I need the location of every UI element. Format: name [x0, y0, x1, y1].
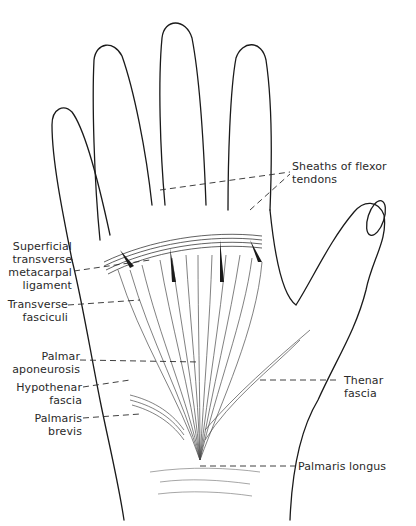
label-line: transverse [8, 253, 72, 266]
label-line: Thenar [344, 374, 383, 387]
label-line: aponeurosis [12, 363, 80, 376]
label-palmaris-brevis: Palmaris brevis [34, 412, 82, 438]
label-hypothenar-fascia: Hypothenar fascia [16, 381, 82, 407]
label-line: fasciculi [8, 311, 68, 324]
label-transverse-fasciculi: Transverse fasciculi [8, 298, 68, 324]
label-line: Sheaths of flexor [292, 160, 387, 173]
label-line: brevis [34, 425, 82, 438]
wrist-creases [150, 468, 260, 496]
label-line: Superficial [8, 240, 72, 253]
label-line: ligament [8, 279, 72, 292]
label-palmaris-longus: Palmaris longus [298, 460, 386, 473]
transverse-ligament [104, 234, 262, 274]
label-line: fascia [344, 387, 383, 400]
label-sheaths-of-flexor-tendons: Sheaths of flexor tendons [292, 160, 387, 186]
label-superficial-transverse-metacarpal-ligament: Superficial transverse metacarpal ligame… [8, 240, 72, 292]
palmar-aponeurosis-fibers [118, 255, 310, 460]
label-line: Palmar [12, 350, 80, 363]
label-line: Hypothenar [16, 381, 82, 394]
label-thenar-fascia: Thenar fascia [344, 374, 383, 400]
label-palmar-aponeurosis: Palmar aponeurosis [12, 350, 80, 376]
label-line: metacarpal [8, 266, 72, 279]
leader-lines [68, 172, 340, 466]
label-line: tendons [292, 173, 387, 186]
label-line: fascia [16, 394, 82, 407]
label-line: Transverse [8, 298, 68, 311]
label-line: Palmaris [34, 412, 82, 425]
label-line: Palmaris longus [298, 460, 386, 473]
